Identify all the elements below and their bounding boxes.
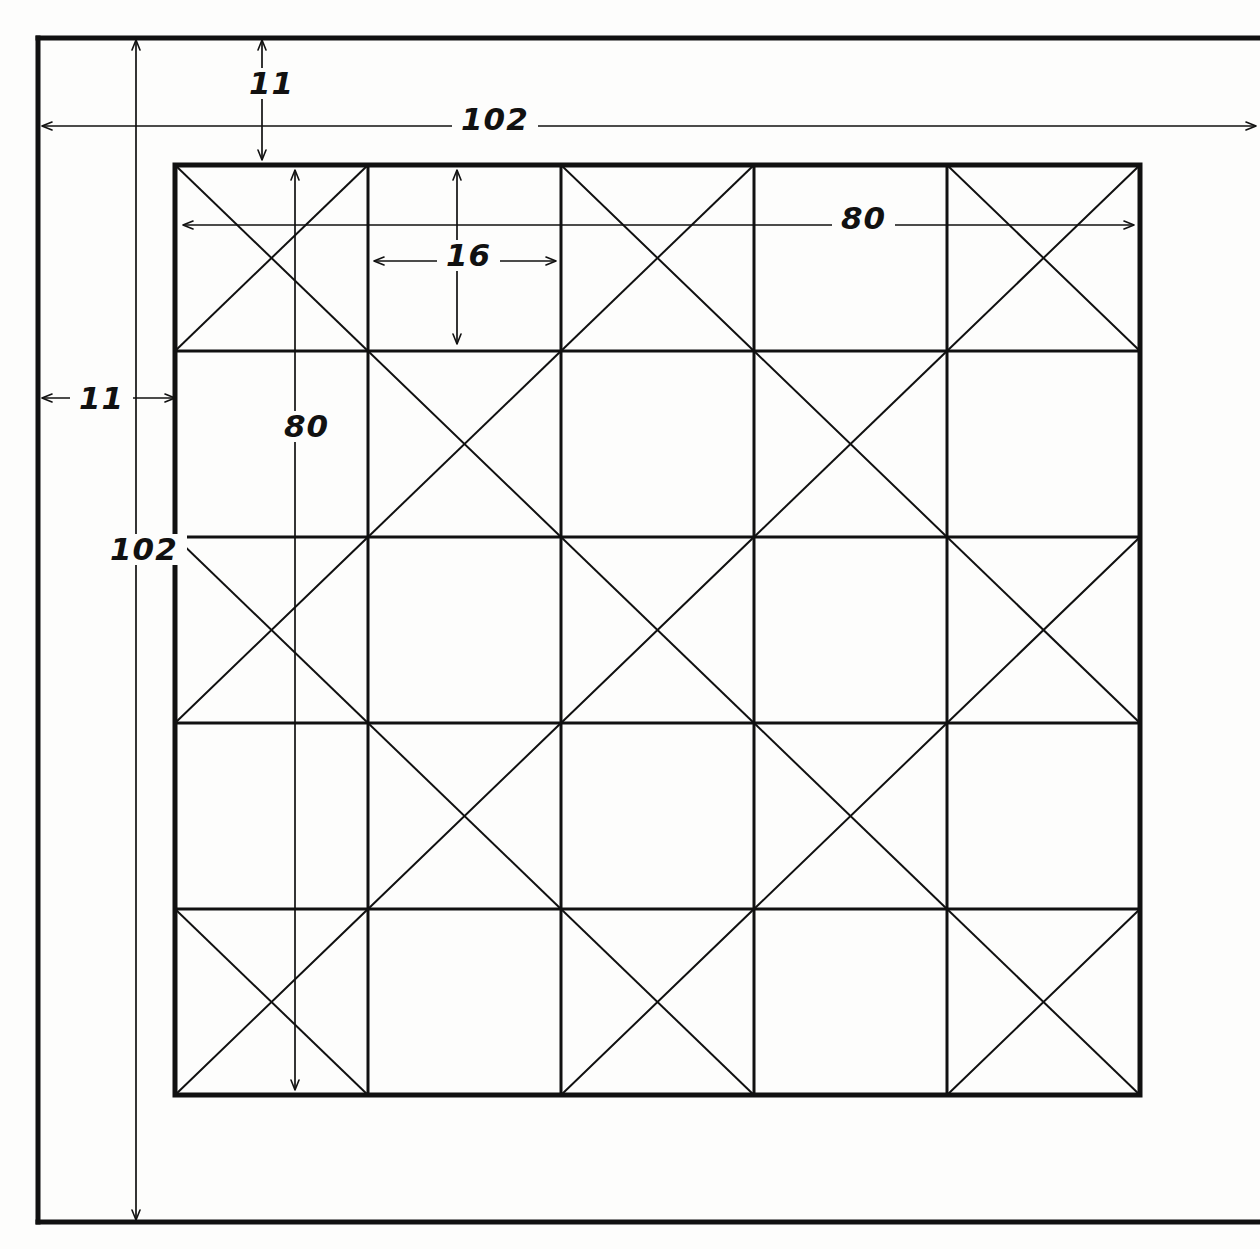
dimension-label-grid-height: 80 — [275, 411, 338, 442]
outer-frame — [38, 38, 1258, 1222]
dimension-label-top-margin: 11 — [240, 68, 303, 99]
dimension-lines — [42, 40, 1256, 1220]
drawing-sheet: 102 102 11 11 80 80 16 — [0, 0, 1260, 1249]
grid-panel — [175, 165, 1140, 1095]
technical-drawing-canvas — [0, 0, 1260, 1249]
dimension-label-overall-width: 102 — [452, 104, 538, 135]
dimension-label-overall-height: 102 — [101, 534, 187, 565]
dimension-label-cell-size: 16 — [437, 240, 500, 271]
dimension-label-left-margin: 11 — [70, 383, 133, 414]
dimension-label-grid-width: 80 — [832, 203, 895, 234]
